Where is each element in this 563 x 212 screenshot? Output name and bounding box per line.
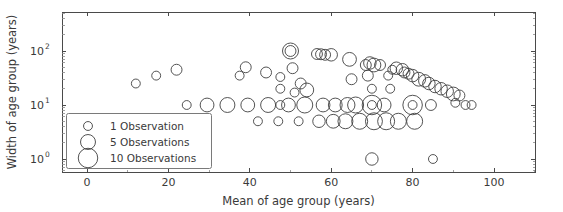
figure-container: 020406080100100101102Mean of age group (…	[0, 0, 563, 212]
data-point	[294, 117, 303, 126]
x-tick-label: 0	[84, 176, 91, 189]
legend-label: 5 Observations	[110, 136, 189, 148]
data-point	[182, 101, 191, 110]
data-point	[367, 101, 376, 110]
y-tick-label: 10	[30, 99, 44, 112]
data-point	[346, 74, 357, 85]
data-point	[367, 58, 381, 72]
data-point	[285, 46, 296, 57]
data-point	[429, 155, 438, 164]
data-point	[241, 98, 255, 112]
data-point	[313, 115, 325, 127]
data-point	[403, 95, 423, 115]
data-point	[220, 98, 235, 113]
y-tick-exponent: 1	[45, 96, 50, 105]
legend-label: 10 Observations	[110, 152, 196, 164]
legend-label: 1 Observation	[110, 120, 184, 132]
data-point	[240, 62, 251, 73]
data-point	[362, 95, 382, 115]
data-point	[235, 71, 244, 80]
x-tick-label: 20	[161, 176, 175, 189]
y-tick-exponent: 0	[45, 150, 50, 159]
data-point	[282, 98, 296, 112]
x-tick-label: 100	[484, 176, 505, 189]
data-point	[261, 98, 276, 113]
data-point	[378, 113, 395, 130]
data-point	[467, 101, 476, 110]
data-point	[253, 117, 262, 126]
data-point	[297, 97, 313, 113]
data-point	[261, 67, 272, 78]
x-axis-title: Mean of age group (years)	[222, 194, 374, 208]
data-point	[377, 98, 391, 112]
x-tick-label: 40	[243, 176, 257, 189]
data-point	[131, 79, 140, 88]
y-tick-exponent: 2	[45, 42, 50, 51]
data-point	[367, 84, 376, 93]
data-point	[366, 153, 378, 165]
y-tick-label: 10	[30, 45, 44, 58]
x-tick-label: 80	[406, 176, 420, 189]
data-point	[287, 63, 298, 74]
data-point	[316, 98, 330, 112]
data-point	[300, 83, 314, 97]
data-point	[407, 113, 423, 129]
data-point	[364, 57, 376, 69]
data-point	[390, 113, 406, 129]
data-point	[290, 88, 299, 97]
y-axis-title: Width of age group (years)	[5, 15, 19, 170]
data-point	[276, 84, 285, 93]
y-tick-label: 10	[30, 153, 44, 166]
data-point	[274, 117, 283, 126]
data-point	[348, 97, 364, 113]
data-point	[171, 64, 182, 75]
x-tick-label: 60	[324, 176, 338, 189]
data-point	[276, 73, 285, 82]
data-point	[386, 84, 395, 93]
data-point	[408, 101, 417, 110]
data-point	[343, 52, 357, 66]
data-point	[276, 101, 285, 110]
data-point	[152, 71, 161, 80]
data-point	[200, 98, 214, 112]
legend: 1 Observation5 Observations10 Observatio…	[67, 114, 212, 169]
data-point	[425, 100, 436, 111]
scatter-plot: 020406080100100101102Mean of age group (…	[0, 0, 563, 212]
